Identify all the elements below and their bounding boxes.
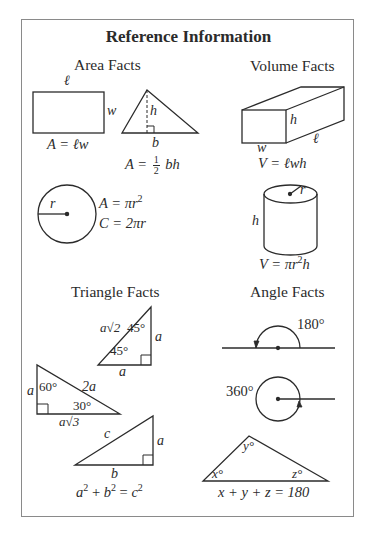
circle-area-formula: A = πr2	[99, 195, 143, 212]
angle-y-label: y°	[243, 438, 254, 454]
pythagorean-triangle	[75, 416, 153, 465]
angle-x-label: x°	[212, 466, 223, 482]
isosceles-bottom-leg: a	[119, 364, 126, 380]
cylinder-radius-label: r	[300, 182, 305, 198]
cylinder-height-label: h	[252, 213, 259, 229]
cylinder-volume-formula: V = πr2h	[259, 256, 310, 273]
angle-z-label: z°	[292, 466, 302, 482]
long-leg-label: a√3	[59, 414, 79, 430]
pythagorean-hypotenuse-label: c	[104, 426, 110, 442]
full-arc-arrow-icon	[297, 401, 302, 407]
box-height-label: h	[290, 112, 297, 128]
isosceles-top-angle: 45°	[127, 320, 145, 336]
triangle-base-label: b	[152, 135, 159, 151]
geometry-diagrams	[0, 0, 377, 538]
box-volume-formula: V = ℓwh	[258, 155, 307, 172]
cylinder-bottom	[264, 246, 317, 255]
triangle-area-formula: A = 12 bh	[125, 155, 180, 176]
rect-area-formula: A = ℓw	[47, 136, 88, 153]
triangle-height-label: h	[150, 103, 157, 119]
full-angle-label: 360°	[226, 383, 254, 400]
pythagorean-leg-b-label: b	[111, 466, 118, 482]
angle-sum-formula: x + y + z = 180	[218, 484, 309, 501]
circle-radius-label: r	[50, 196, 55, 212]
isosceles-hypotenuse-label: a√2	[100, 320, 120, 336]
straight-angle-label: 180°	[297, 316, 325, 333]
rect-length-label: ℓ	[64, 73, 70, 89]
hypotenuse-2a-label: 2a	[82, 379, 96, 395]
box-front-face	[242, 110, 286, 143]
angle-30-label: 30°	[73, 398, 91, 414]
circle-center-dot	[65, 212, 68, 215]
box-length-label: ℓ	[313, 131, 319, 147]
triangle-shape	[122, 90, 198, 133]
box-top-edge	[286, 87, 344, 110]
isosceles-right-leg: a	[155, 329, 162, 345]
pythagorean-formula: a2 + b2 = c2	[76, 484, 143, 501]
circle-circumference-formula: C = 2πr	[99, 215, 146, 232]
arc-arrow-icon	[254, 341, 259, 348]
straight-angle-arc	[256, 326, 300, 348]
rectangle-shape	[33, 92, 104, 133]
right-angle-marker	[147, 126, 154, 133]
short-leg-label: a	[27, 383, 34, 399]
rect-width-label: w	[107, 103, 116, 119]
angle-60-label: 60°	[39, 379, 57, 395]
pythagorean-leg-a-label: a	[157, 433, 164, 449]
isosceles-bottom-angle: 45°	[110, 343, 128, 359]
box-width-label: w	[257, 140, 266, 156]
